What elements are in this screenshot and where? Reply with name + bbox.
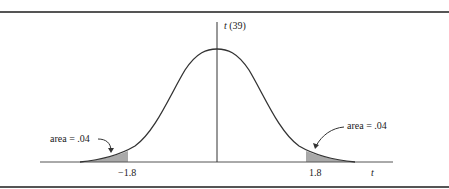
x-axis-label: t	[371, 168, 374, 178]
right-arrow-icon	[316, 127, 344, 146]
df-label: (39)	[227, 20, 246, 31]
axis-title: t (39)	[224, 21, 246, 31]
right-area-label: area = .04	[347, 121, 387, 131]
right-arrowhead-icon	[313, 143, 319, 149]
right-tick-label: 1.8	[309, 168, 322, 178]
left-tick-label: −1.8	[118, 168, 136, 178]
left-area-label: area = .04	[50, 134, 90, 144]
left-arrowhead-icon	[108, 148, 114, 153]
